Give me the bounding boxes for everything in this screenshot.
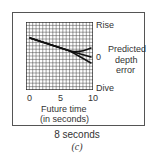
y-label-zero: 0 — [96, 52, 101, 62]
x-axis-title-2: (in seconds) — [40, 114, 89, 124]
x-tick-10: 10 — [88, 93, 98, 103]
y-label-dive: Dive — [96, 83, 114, 93]
y-axis-title-1: Predicted — [108, 44, 146, 54]
caption-sub: (c) — [0, 141, 154, 152]
y-axis-title-3: error — [116, 65, 135, 75]
y-axis-title-2: depth — [115, 55, 138, 65]
x-tick-5: 5 — [58, 93, 63, 103]
x-axis-title-1: Future time — [41, 104, 87, 114]
caption-title: 8 seconds — [0, 129, 154, 140]
y-label-rise: Rise — [96, 20, 114, 30]
x-tick-0: 0 — [27, 93, 32, 103]
chart-grid — [26, 22, 93, 90]
